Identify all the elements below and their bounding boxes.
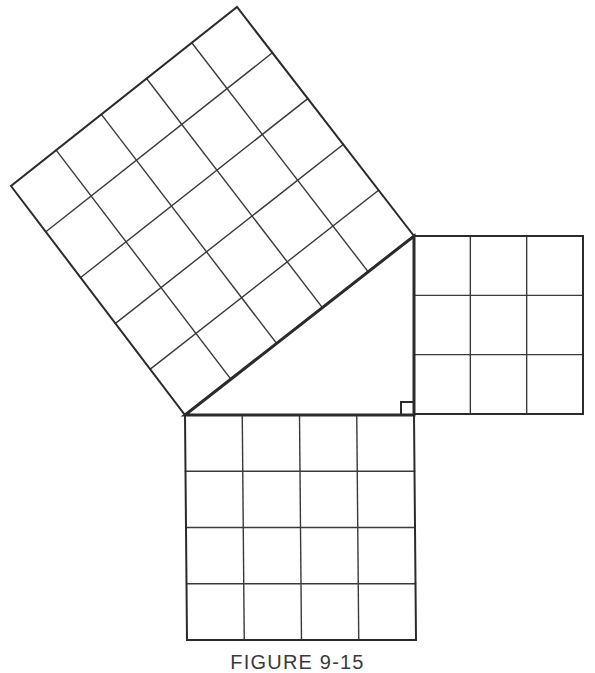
grid-line (192, 43, 368, 272)
square-on-horizontal-leg (185, 415, 416, 640)
grid-line (357, 415, 359, 640)
triangle-outline (185, 236, 414, 415)
grid-line (101, 114, 276, 343)
square-on-hypotenuse (11, 7, 414, 415)
grid-line (115, 144, 343, 323)
grid-line (147, 79, 323, 308)
grid-line (81, 99, 308, 278)
grid-line (56, 150, 231, 379)
square-outline (414, 236, 583, 414)
square-on-vertical-leg (414, 236, 583, 414)
right-angle-marker-icon (401, 402, 414, 415)
figure-caption: FIGURE 9-15 (0, 651, 595, 673)
right-angle-square-icon (401, 402, 414, 415)
right-triangle (185, 236, 414, 415)
grid-line (46, 53, 273, 232)
grid-line (150, 190, 378, 369)
